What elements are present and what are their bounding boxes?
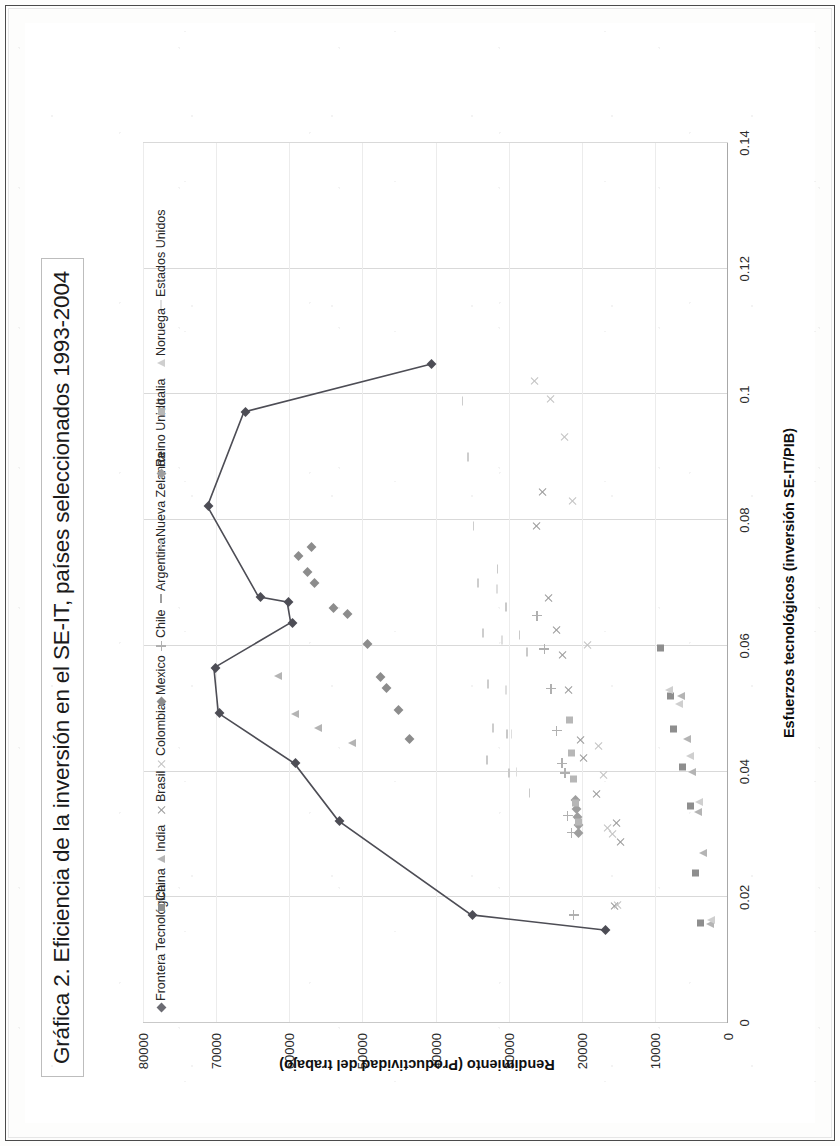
- x-tick-label: 0.06: [737, 633, 752, 658]
- triangle-marker-icon: [665, 687, 673, 695]
- legend-item-india[interactable]: India: [155, 825, 168, 863]
- diamond-marker-icon: [240, 407, 250, 417]
- data-point: [455, 453, 473, 462]
- diamond-marker-icon: [255, 592, 265, 602]
- x-axis-line: [727, 143, 728, 1023]
- dash-marker-icon: [486, 756, 488, 765]
- scanned-page: Gráfica 2. Eficiencia de la inversión en…: [0, 0, 840, 1146]
- data-point: [475, 679, 493, 688]
- plot-area: [143, 143, 728, 1023]
- data-point: [539, 593, 557, 603]
- legend-item-noruega[interactable]: Noruega: [155, 308, 168, 367]
- x-marker-icon: [546, 394, 555, 404]
- data-point: [285, 760, 303, 767]
- diamond-marker-icon: [204, 501, 214, 511]
- data-point: [268, 672, 286, 680]
- diamond-marker-icon: [343, 609, 353, 619]
- legend-item-china[interactable]: China: [155, 868, 168, 911]
- data-point: [548, 726, 566, 736]
- diamond-marker-icon: [382, 683, 392, 693]
- diamond-marker-icon: [427, 359, 437, 369]
- data-point: [460, 522, 478, 531]
- square-marker-icon: [572, 800, 579, 807]
- x-marker-icon: [157, 805, 166, 815]
- legend-item-mexico[interactable]: Mexico: [155, 655, 168, 705]
- data-point: [288, 552, 306, 559]
- legend-item-estados-unidos[interactable]: Estados Unidos: [155, 209, 168, 309]
- legend-label: Mexico: [155, 655, 168, 695]
- y-tick-label: 0: [721, 1033, 736, 1123]
- square-marker-icon: [158, 904, 165, 911]
- dash-marker-icon: [160, 540, 162, 549]
- data-point: [493, 685, 511, 694]
- legend-item-chile[interactable]: Chile: [155, 610, 168, 652]
- chart-figure: Gráfica 2. Eficiencia de la inversión en…: [25, 23, 815, 1123]
- data-point: [553, 758, 571, 768]
- dash-marker-icon: [160, 594, 162, 603]
- triangle-marker-icon: [695, 798, 703, 806]
- x-marker-icon: [576, 735, 585, 745]
- data-point: [565, 800, 583, 807]
- y-tick-label: 40000: [428, 1033, 443, 1123]
- data-point: [514, 648, 532, 657]
- triangle-marker-icon: [157, 855, 165, 863]
- data-point: [598, 823, 616, 833]
- diamond-marker-icon: [294, 551, 304, 561]
- data-point: [663, 726, 681, 733]
- plus-marker-icon: [539, 644, 549, 654]
- rotated-figure-container: Gráfica 2. Eficiencia de la inversión en…: [25, 23, 815, 1123]
- diamond-marker-icon: [393, 705, 403, 715]
- data-point: [209, 710, 227, 717]
- diamond-marker-icon: [601, 925, 611, 935]
- y-tick-label: 30000: [501, 1033, 516, 1123]
- data-point: [278, 598, 296, 605]
- data-point: [688, 808, 706, 816]
- data-point: [250, 593, 268, 600]
- legend-label: Brasil: [155, 771, 168, 802]
- data-point: [677, 735, 695, 743]
- x-tick-label: 0.14: [737, 130, 752, 155]
- data-point: [563, 776, 581, 783]
- data-point: [489, 635, 507, 644]
- data-point: [693, 849, 711, 857]
- data-point: [493, 602, 511, 611]
- data-point: [323, 605, 341, 612]
- diamond-marker-icon: [284, 597, 294, 607]
- plus-marker-icon: [557, 758, 567, 768]
- square-marker-icon: [568, 749, 575, 756]
- data-point: [563, 496, 581, 506]
- triangle-marker-icon: [683, 735, 691, 743]
- data-point: [198, 503, 216, 510]
- dash-marker-icon: [160, 300, 162, 309]
- diamond-marker-icon: [306, 542, 316, 552]
- x-marker-icon: [568, 496, 577, 506]
- dash-marker-icon: [467, 453, 469, 462]
- legend-label: Chile: [155, 610, 168, 639]
- dash-marker-icon: [511, 729, 513, 738]
- x-marker-icon: [594, 741, 603, 751]
- legend-item-brasil[interactable]: Brasil: [155, 771, 168, 815]
- x-tick-label: 0.08: [737, 508, 752, 533]
- diamond-marker-icon: [574, 828, 584, 838]
- dash-marker-icon: [473, 522, 475, 531]
- data-point: [503, 767, 521, 776]
- data-point: [370, 674, 388, 681]
- data-point: [470, 629, 488, 638]
- legend-label: India: [155, 825, 168, 852]
- legend-item-colombia[interactable]: Colombia: [155, 703, 168, 769]
- data-point: [682, 768, 700, 776]
- plus-marker-icon: [552, 726, 562, 736]
- x-tick-label: 0.12: [737, 256, 752, 281]
- dash-marker-icon: [529, 788, 531, 797]
- data-point: [516, 788, 534, 797]
- data-point: [541, 394, 559, 404]
- triangle-marker-icon: [291, 710, 299, 718]
- data-point: [608, 900, 626, 910]
- x-tick-label: 0.04: [737, 759, 752, 784]
- legend-item-italia[interactable]: Italia: [155, 379, 168, 415]
- x-marker-icon: [532, 521, 541, 531]
- y-tick-label: 70000: [209, 1033, 224, 1123]
- data-point: [571, 735, 589, 745]
- data-point: [480, 723, 498, 732]
- x-marker-icon: [538, 487, 547, 497]
